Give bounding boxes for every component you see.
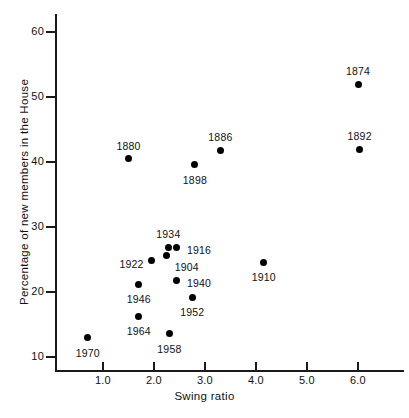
data-point-1964[interactable] [135,313,142,320]
data-point-1874[interactable] [355,81,362,88]
data-point-label-1886: 1886 [208,132,232,143]
data-point-1922[interactable] [148,257,155,264]
data-point-label-1946: 1946 [127,294,151,305]
y-tick-label-10: 10 [16,351,44,362]
data-point-1910[interactable] [260,259,267,266]
data-point-1916[interactable] [173,244,180,251]
data-point-label-1892: 1892 [348,131,372,142]
x-tick-6.0 [357,362,359,371]
data-point-1880[interactable] [125,155,132,162]
x-tick-3.0 [204,362,206,371]
data-point-1904[interactable] [163,252,170,259]
x-tick-4.0 [255,362,257,371]
x-axis-title: Swing ratio [0,390,409,402]
x-tick-label-6.0: 6.0 [338,375,378,386]
y-tick-label-60: 60 [16,26,44,37]
data-point-label-1940: 1940 [187,278,211,289]
x-tick-label-1.0: 1.0 [83,375,123,386]
y-tick-40 [46,161,55,163]
data-point-1946[interactable] [135,281,142,288]
x-tick-5.0 [306,362,308,371]
data-point-label-1898: 1898 [183,175,207,186]
data-point-1892[interactable] [356,146,363,153]
x-tick-label-4.0: 4.0 [236,375,276,386]
data-point-label-1970: 1970 [76,348,100,359]
scatter-plot: 102030405060 1.02.03.04.05.06.0 18741892… [0,0,409,418]
data-point-1934[interactable] [165,244,172,251]
y-tick-30 [46,226,55,228]
data-point-1940[interactable] [173,277,180,284]
data-point-label-1934: 1934 [156,229,180,240]
x-tick-1.0 [102,362,104,371]
x-axis-line [55,370,404,372]
data-point-1952[interactable] [189,294,196,301]
y-axis-line [55,14,57,372]
data-point-label-1916: 1916 [187,245,211,256]
data-point-label-1922: 1922 [119,259,143,270]
x-tick-label-5.0: 5.0 [287,375,327,386]
data-point-1970[interactable] [84,334,91,341]
data-point-label-1952: 1952 [180,307,204,318]
data-point-1958[interactable] [166,330,173,337]
x-tick-label-2.0: 2.0 [134,375,174,386]
data-point-label-1880: 1880 [117,141,141,152]
data-point-label-1904: 1904 [175,262,199,273]
y-tick-50 [46,96,55,98]
data-point-label-1910: 1910 [252,272,276,283]
x-tick-label-3.0: 3.0 [185,375,225,386]
y-tick-60 [46,31,55,33]
y-tick-20 [46,291,55,293]
data-point-label-1964: 1964 [127,326,151,337]
x-tick-2.0 [153,362,155,371]
y-axis-title: Percentage of new members in the House [18,62,30,322]
data-point-label-1958: 1958 [157,344,181,355]
data-point-1898[interactable] [191,161,198,168]
data-point-1886[interactable] [217,147,224,154]
y-tick-10 [46,356,55,358]
data-point-label-1874: 1874 [346,66,370,77]
